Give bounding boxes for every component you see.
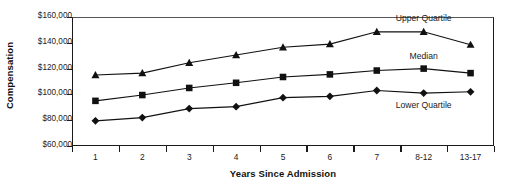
x-axis-tick-mark <box>119 146 120 152</box>
y-axis-tick: $120,000 <box>12 69 72 70</box>
series-annotation-upper-quartile: Upper Quartile <box>396 13 452 23</box>
x-axis-tick-label: 1 <box>93 152 98 162</box>
y-axis-tick-label: $60,000 <box>20 140 72 149</box>
x-axis-tick-label: 2 <box>140 152 145 162</box>
x-axis-tick-label: 5 <box>281 152 286 162</box>
x-axis-tick-mark <box>72 146 73 152</box>
y-axis-tick: $80,000 <box>12 120 72 121</box>
x-axis-tick-label: 13-17 <box>460 152 481 162</box>
compensation-line-chart: Compensation $160,000$140,000$120,000$10… <box>0 0 505 186</box>
series-annotation-median: Median <box>410 51 438 61</box>
x-axis-title: Years Since Admission <box>72 168 494 179</box>
x-axis-tick-mark <box>400 146 401 152</box>
plot-area <box>72 17 494 146</box>
x-axis-tick-mark <box>306 146 307 152</box>
y-axis-tick: $160,000 <box>12 17 72 18</box>
y-axis-tick: $60,000 <box>12 146 72 147</box>
y-axis-tick: $140,000 <box>12 43 72 44</box>
series-annotation-lower-quartile: Lower Quartile <box>396 100 452 110</box>
x-axis-tick-mark <box>213 146 214 152</box>
y-axis-title: Compensation <box>0 0 20 150</box>
x-axis-tick-mark <box>494 146 495 152</box>
y-axis-tick-label: $80,000 <box>20 114 72 123</box>
y-axis-tick-label: $160,000 <box>20 11 72 20</box>
y-axis-tick-label: $100,000 <box>20 88 72 97</box>
y-axis-tick: $100,000 <box>12 94 72 95</box>
x-axis-tick-label: 6 <box>328 152 333 162</box>
x-axis-tick-label: 4 <box>234 152 239 162</box>
x-axis-tick-mark <box>353 146 354 152</box>
x-axis-tick-mark <box>447 146 448 152</box>
y-axis-tick-label: $120,000 <box>20 63 72 72</box>
x-axis-tick-label: 7 <box>374 152 379 162</box>
x-axis-tick-mark <box>166 146 167 152</box>
y-axis-title-text: Compensation <box>5 41 16 108</box>
x-axis-tick-label: 8-12 <box>415 152 432 162</box>
x-axis-tick-mark <box>260 146 261 152</box>
y-axis-tick-label: $140,000 <box>20 37 72 46</box>
x-axis-tick-label: 3 <box>187 152 192 162</box>
